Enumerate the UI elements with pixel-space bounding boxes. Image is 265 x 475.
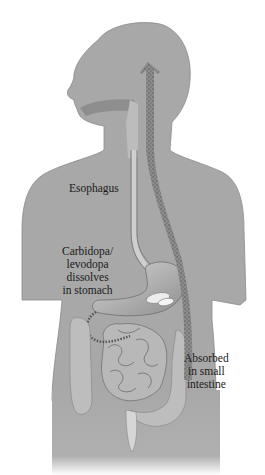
digestive-system-diagram <box>0 0 265 475</box>
label-small-intestine: Absorbed in small intestine <box>184 352 229 391</box>
label-stomach: Carbidopa/ levodopa dissolves in stomach <box>62 245 113 297</box>
label-intestine-line-3: intestine <box>184 378 229 391</box>
label-stomach-line-4: in stomach <box>62 284 113 297</box>
label-stomach-line-2: levodopa <box>62 258 113 271</box>
label-intestine-line-2: in small <box>184 365 229 378</box>
label-esophagus-text: Esophagus <box>69 182 119 195</box>
label-stomach-line-1: Carbidopa/ <box>62 245 113 258</box>
label-esophagus: Esophagus <box>69 182 119 195</box>
label-intestine-line-1: Absorbed <box>184 352 229 365</box>
label-stomach-line-3: dissolves <box>62 271 113 284</box>
